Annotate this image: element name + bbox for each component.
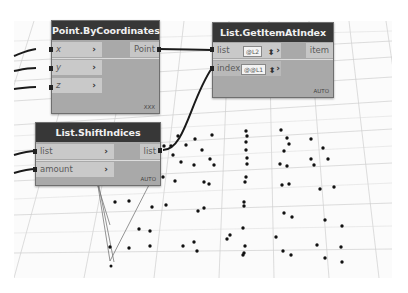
divider (52, 58, 159, 59)
port-connector (49, 85, 53, 90)
port-label: index (217, 61, 240, 76)
level-spinner-icon[interactable]: ⬍ (269, 63, 276, 78)
port-label: x (56, 42, 61, 57)
input-port-list[interactable]: list @L2 ⬍ › (213, 43, 281, 58)
level-spinner-icon[interactable]: ⬍ (268, 45, 275, 60)
chevron-right-icon: › (104, 144, 108, 159)
divider (213, 59, 333, 60)
node-title: List.ShiftIndices (36, 123, 160, 142)
port-label: amount (40, 162, 73, 177)
input-port-z[interactable]: z › (52, 78, 102, 93)
lacing-indicator[interactable]: AUTO (314, 88, 329, 94)
chevron-right-icon: › (104, 162, 108, 177)
chevron-right-icon: › (92, 78, 96, 93)
chevron-right-icon: › (276, 43, 280, 58)
port-connector (210, 47, 214, 52)
output-port-list[interactable]: list (140, 144, 160, 159)
node-list-get-item-at-index[interactable]: List.GetItemAtIndex list @L2 ⬍ › index @… (212, 22, 334, 98)
port-label: list (40, 144, 52, 159)
port-connector (157, 47, 161, 52)
input-port-index[interactable]: index @@L1 ⬍ › (213, 61, 281, 76)
chevron-right-icon: › (276, 61, 280, 76)
port-connector (49, 47, 53, 52)
input-port-amount[interactable]: amount › (36, 162, 114, 177)
lacing-indicator[interactable]: XXX (144, 104, 155, 110)
input-port-x[interactable]: x › (52, 42, 102, 57)
port-label: z (56, 78, 60, 93)
divider (36, 160, 160, 161)
node-list-shift-indices[interactable]: List.ShiftIndices list › amount › list A… (35, 122, 161, 186)
list-level-selector[interactable]: @@L1 (241, 64, 266, 75)
port-connector (158, 148, 162, 153)
output-port-point[interactable]: Point (130, 42, 159, 57)
node-point-by-coordinates[interactable]: Point.ByCoordinates x › y › z › Point XX… (51, 20, 160, 114)
list-level-selector[interactable]: @L2 (243, 46, 262, 57)
port-connector (33, 149, 37, 154)
chevron-right-icon: › (92, 60, 96, 75)
port-label: list (217, 43, 229, 58)
port-label: y (56, 60, 61, 75)
output-port-item[interactable]: item (306, 43, 333, 58)
port-connector (210, 66, 214, 71)
input-port-list[interactable]: list › (36, 144, 114, 159)
node-title: List.GetItemAtIndex (213, 23, 333, 42)
chevron-right-icon: › (92, 42, 96, 57)
node-title: Point.ByCoordinates (52, 21, 159, 40)
input-port-y[interactable]: y › (52, 60, 102, 75)
port-connector (33, 167, 37, 172)
lacing-indicator[interactable]: AUTO (141, 176, 156, 182)
port-connector (49, 66, 53, 71)
